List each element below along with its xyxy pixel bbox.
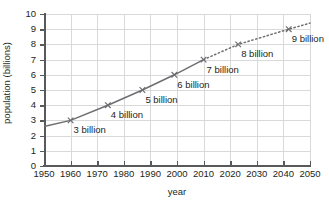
data-point-label: 3 billion	[74, 125, 106, 135]
y-axis-tick	[40, 60, 45, 61]
x-axis-tick	[124, 161, 125, 166]
y-axis-tick	[40, 105, 45, 106]
x-axis-title: year	[44, 186, 310, 197]
y-axis-tick-label: 7	[6, 55, 36, 65]
y-axis-tick	[40, 90, 45, 91]
horizontal-gridline	[44, 60, 310, 61]
data-point-label: 6 billion	[177, 80, 209, 90]
data-point-label: 7 billion	[207, 65, 239, 75]
horizontal-gridline	[44, 105, 310, 106]
horizontal-gridline	[44, 14, 310, 15]
horizontal-gridline	[44, 120, 310, 121]
horizontal-gridline	[44, 90, 310, 91]
data-point-label: 9 billion	[292, 34, 324, 44]
y-axis-tick	[40, 166, 45, 167]
y-axis-tick-label: 0	[6, 161, 36, 171]
y-axis-tick	[40, 29, 45, 30]
y-axis-tick	[40, 75, 45, 76]
y-axis-tick	[40, 151, 45, 152]
x-axis-tick	[283, 161, 284, 166]
x-axis-tick-label: 2050	[293, 169, 327, 179]
data-point-label: 8 billion	[241, 49, 273, 59]
horizontal-gridline	[44, 29, 310, 30]
y-axis-tick-label: 2	[6, 131, 36, 141]
plot-area	[44, 14, 310, 166]
y-axis-tick	[40, 120, 45, 121]
horizontal-gridline	[44, 75, 310, 76]
y-axis-tick-label: 3	[6, 115, 36, 125]
x-axis-tick	[71, 161, 72, 166]
x-axis-tick	[310, 161, 311, 166]
x-axis-tick	[177, 161, 178, 166]
y-axis-tick	[40, 14, 45, 15]
y-axis-tick-label: 1	[6, 146, 36, 156]
y-axis-tick-label: 9	[6, 24, 36, 34]
x-axis-tick	[230, 161, 231, 166]
data-point-label: 4 billion	[111, 110, 143, 120]
horizontal-gridline	[44, 136, 310, 137]
x-axis-tick	[97, 161, 98, 166]
horizontal-gridline	[44, 151, 310, 152]
y-axis-tick	[40, 136, 45, 137]
y-axis-tick-label: 5	[6, 85, 36, 95]
x-axis-tick	[257, 161, 258, 166]
data-point-label: 5 billion	[145, 95, 177, 105]
y-axis-tick-label: 8	[6, 39, 36, 49]
y-axis-tick	[40, 44, 45, 45]
y-axis-tick-label: 4	[6, 100, 36, 110]
x-axis-tick	[204, 161, 205, 166]
horizontal-gridline	[44, 44, 310, 45]
x-axis-tick	[150, 161, 151, 166]
y-axis-tick-label: 6	[6, 70, 36, 80]
population-growth-chart: population (billions) year 1950196019701…	[0, 0, 329, 208]
y-axis-tick-label: 10	[6, 9, 36, 19]
